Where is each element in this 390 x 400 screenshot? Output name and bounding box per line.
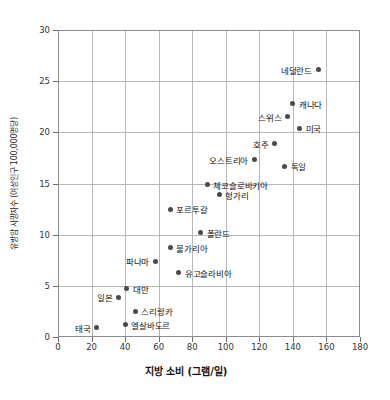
data-point-label: 호주: [253, 138, 269, 150]
data-point: [297, 126, 302, 131]
x-axis-tick-label: 120: [251, 342, 267, 352]
data-point: [123, 322, 128, 327]
data-point-label: 독일: [291, 160, 307, 172]
x-axis-tick-label: 0: [55, 342, 60, 352]
data-point-label: 엘살바도르: [131, 319, 170, 331]
x-axis-tick-label: 180: [352, 342, 368, 352]
data-point: [153, 259, 158, 264]
data-point-label: 헝가리: [225, 189, 248, 201]
x-axis-title: 지방 소비 (그램/일): [0, 363, 390, 378]
data-point-label: 캐나다: [299, 98, 322, 110]
x-axis-tick-label: 140: [285, 342, 301, 352]
x-axis-tick-label: 160: [318, 342, 334, 352]
x-axis-tick-label: 20: [86, 342, 97, 352]
y-axis-tick-label: 10: [30, 230, 50, 240]
data-point: [217, 192, 222, 197]
data-point-label: 파나마: [126, 255, 149, 267]
x-axis-tick-label: 100: [218, 342, 234, 352]
data-point-label: 스위스: [258, 111, 281, 123]
data-point-label: 포르투갈: [176, 203, 207, 215]
data-point-label: 일본: [97, 291, 113, 303]
data-point: [133, 309, 138, 314]
data-point-label: 불가리아: [176, 242, 207, 254]
data-point-label: 스리랑카: [141, 305, 172, 317]
y-axis-title: 유방암 사망자수 (여성인구 100,000명당): [8, 30, 22, 337]
data-point: [205, 182, 210, 187]
y-axis-tick-label: 15: [30, 179, 50, 189]
y-axis-tick: [53, 132, 58, 133]
y-axis-tick: [53, 286, 58, 287]
gridline-horizontal: [59, 286, 359, 287]
y-axis-tick: [53, 81, 58, 82]
data-point: [168, 207, 173, 212]
data-point: [272, 141, 277, 146]
y-axis-tick-label: 25: [30, 76, 50, 86]
y-axis-tick-label: 0: [30, 332, 50, 342]
gridline-horizontal: [59, 81, 359, 82]
data-point: [116, 295, 121, 300]
data-point-label: 대만: [133, 283, 149, 295]
x-axis-tick-label: 60: [153, 342, 164, 352]
data-point-label: 유고슬라비아: [185, 267, 232, 279]
data-point: [282, 164, 287, 169]
data-point-label: 네덜란드: [281, 64, 312, 76]
data-point-label: 폴란드: [207, 227, 230, 239]
x-axis-tick-label: 80: [187, 342, 198, 352]
x-axis-tick-label: 40: [120, 342, 131, 352]
y-axis-tick-label: 30: [30, 25, 50, 35]
data-point-label: 태국: [75, 322, 91, 334]
y-axis-tick: [53, 235, 58, 236]
y-axis-tick: [53, 184, 58, 185]
y-axis-tick: [53, 337, 58, 338]
data-point-label: 체코슬로바키아: [213, 179, 268, 191]
data-point-label: 오스트리아: [209, 154, 248, 166]
y-axis-tick: [53, 30, 58, 31]
y-axis-tick-label: 5: [30, 281, 50, 291]
data-point-label: 미국: [306, 122, 322, 134]
y-axis-tick-label: 20: [30, 127, 50, 137]
scatter-chart: 유방암 사망자수 (여성인구 100,000명당) 02040608010012…: [0, 0, 390, 400]
